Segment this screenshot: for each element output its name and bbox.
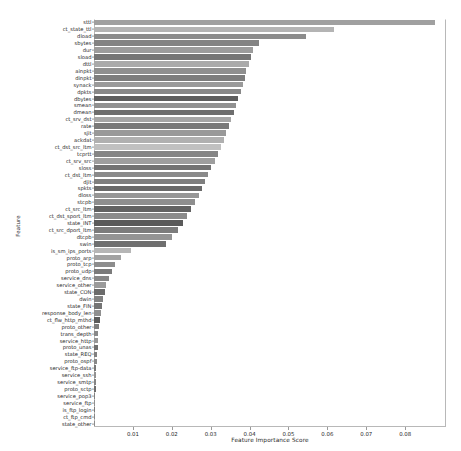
y-tick-mark bbox=[92, 243, 94, 244]
bar-row bbox=[94, 137, 446, 143]
bar bbox=[94, 110, 234, 116]
bar-row bbox=[94, 421, 446, 427]
bar-row bbox=[94, 186, 446, 192]
y-tick-label: sttl bbox=[83, 19, 91, 25]
y-tick-mark bbox=[92, 153, 94, 154]
y-tick-mark bbox=[92, 98, 94, 99]
y-tick-mark bbox=[92, 216, 94, 217]
bar bbox=[94, 227, 178, 233]
bar bbox=[94, 137, 224, 143]
y-tick-mark bbox=[92, 292, 94, 293]
y-tick-mark bbox=[92, 264, 94, 265]
bar-row bbox=[94, 96, 446, 102]
y-tick-mark bbox=[92, 340, 94, 341]
y-tick-label: dinpkt bbox=[75, 75, 91, 81]
y-tick-mark bbox=[92, 333, 94, 334]
y-tick-label: is_sm_ips_ports bbox=[51, 248, 91, 254]
y-tick-label: ct_src_ltm bbox=[65, 206, 91, 212]
bar bbox=[94, 359, 97, 365]
y-tick-mark bbox=[92, 230, 94, 231]
y-tick-label: proto_arp bbox=[67, 255, 92, 261]
bar-row bbox=[94, 165, 446, 171]
x-tick-mark bbox=[327, 427, 328, 430]
bar bbox=[94, 158, 215, 164]
bar-row bbox=[94, 193, 446, 199]
y-tick-mark bbox=[92, 285, 94, 286]
bar-row bbox=[94, 82, 446, 88]
y-tick-label: service_ftp bbox=[63, 400, 91, 406]
bar bbox=[94, 34, 306, 40]
y-tick-label: proto_other bbox=[61, 324, 91, 330]
bar bbox=[94, 234, 172, 240]
y-tick-mark bbox=[92, 223, 94, 224]
y-tick-label: dwin bbox=[79, 296, 91, 302]
y-tick-mark bbox=[92, 181, 94, 182]
y-tick-label: ct_flw_http_mthd bbox=[47, 317, 92, 323]
y-tick-label: proto_sctp bbox=[64, 386, 91, 392]
y-tick-mark bbox=[92, 126, 94, 127]
y-tick-label: proto_tcp bbox=[67, 261, 91, 267]
y-tick-label: ct_dst_sport_ltm bbox=[49, 213, 92, 219]
y-tick-mark bbox=[92, 77, 94, 78]
bar-row bbox=[94, 282, 446, 288]
y-tick-label: djit bbox=[83, 179, 91, 185]
y-tick-label: dur bbox=[83, 47, 92, 53]
bar bbox=[94, 352, 97, 358]
x-tick-mark bbox=[405, 427, 406, 430]
bar-row bbox=[94, 262, 446, 268]
bar bbox=[94, 345, 98, 351]
y-tick-mark bbox=[92, 50, 94, 51]
y-tick-mark bbox=[92, 416, 94, 417]
bar-row bbox=[94, 75, 446, 81]
bar-row bbox=[94, 255, 446, 261]
bar bbox=[94, 282, 106, 288]
bar bbox=[94, 20, 435, 26]
y-tick-label: ackdat bbox=[74, 137, 92, 143]
bar bbox=[94, 220, 183, 226]
bar bbox=[94, 317, 100, 323]
y-tick-mark bbox=[92, 326, 94, 327]
bar-row bbox=[94, 241, 446, 247]
y-tick-mark bbox=[92, 395, 94, 396]
x-tick-mark bbox=[133, 427, 134, 430]
x-tick-mark bbox=[211, 427, 212, 430]
y-tick-mark bbox=[92, 105, 94, 106]
bar bbox=[94, 289, 105, 295]
y-tick-mark bbox=[92, 91, 94, 92]
bar-row bbox=[94, 213, 446, 219]
bar-row bbox=[94, 40, 446, 46]
bar bbox=[94, 331, 98, 337]
bar-row bbox=[94, 68, 446, 74]
y-tick-mark bbox=[92, 389, 94, 390]
bar bbox=[94, 206, 191, 212]
bar-row bbox=[94, 269, 446, 275]
y-tick-label: ct_ftp_cmd bbox=[63, 414, 91, 420]
y-tick-label: trans_depth bbox=[60, 331, 91, 337]
bar-row bbox=[94, 199, 446, 205]
bar bbox=[94, 40, 259, 46]
bar-row bbox=[94, 248, 446, 254]
y-tick-label: service_dns bbox=[61, 275, 91, 281]
bar bbox=[94, 255, 121, 261]
bar-row bbox=[94, 400, 446, 406]
x-axis-label: Feature Importance Score bbox=[94, 437, 446, 443]
y-tick-label: ct_srv_src bbox=[66, 158, 92, 164]
y-tick-label: proto_unas bbox=[63, 344, 92, 350]
y-axis-label-text: Feature bbox=[15, 215, 21, 236]
bar bbox=[94, 407, 95, 413]
bar bbox=[94, 269, 112, 275]
y-tick-mark bbox=[92, 382, 94, 383]
y-tick-mark bbox=[92, 209, 94, 210]
y-tick-mark bbox=[92, 70, 94, 71]
bar-row bbox=[94, 393, 446, 399]
plot-area bbox=[94, 19, 446, 427]
y-tick-mark bbox=[92, 375, 94, 376]
y-tick-label: ct_srv_dst bbox=[65, 116, 91, 122]
y-tick-label: synack bbox=[73, 82, 91, 88]
bar-row bbox=[94, 407, 446, 413]
bar-row bbox=[94, 130, 446, 136]
bar-row bbox=[94, 27, 446, 33]
y-tick-mark bbox=[92, 119, 94, 120]
bar-row bbox=[94, 144, 446, 150]
bar-row bbox=[94, 206, 446, 212]
